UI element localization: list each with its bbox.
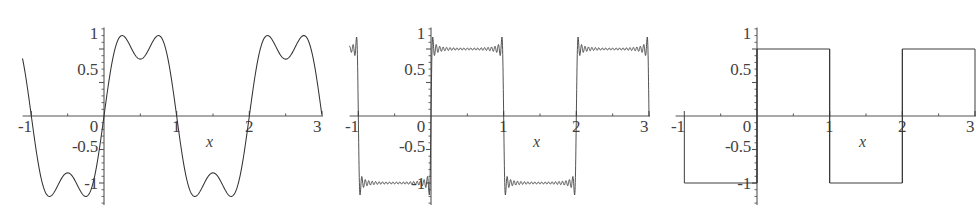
x-tick-label-1: 1 [499,118,507,135]
x-tick-label-neg1: -1 [345,118,359,135]
y-tick-label-0p5: 0.5 [711,61,751,78]
plot-svg-0 [0,0,326,211]
plot-svg-2 [653,0,979,211]
x-tick-label-2: 2 [898,118,906,135]
x-axis-variable-label: x [859,134,866,150]
y-tick-label-neg0p5: -0.5 [703,138,751,155]
y-tick-label-0: 0 [733,118,751,135]
x-axis-variable-label: x [533,134,540,150]
y-tick-label-neg1: -1 [725,175,751,192]
y-tick-label-1: 1 [80,25,98,42]
x-tick-label-1: 1 [172,118,180,135]
x-tick-label-2: 2 [572,118,580,135]
plot-panel-fourier-2-terms: 1 0.5 0 -0.5 -1 -1 1 2 3 x [0,0,326,211]
y-tick-label-neg1: -1 [399,175,425,192]
x-tick-label-neg1: -1 [671,118,685,135]
x-tick-label-3: 3 [313,118,321,135]
y-tick-label-neg0p5: -0.5 [50,138,98,155]
plot-svg-1 [327,0,653,211]
y-tick-label-neg1: -1 [72,175,98,192]
x-tick-label-1: 1 [825,118,833,135]
y-tick-label-0p5: 0.5 [58,61,98,78]
x-tick-label-3: 3 [966,118,974,135]
y-tick-label-1: 1 [733,25,751,42]
x-tick-label-neg1: -1 [18,118,32,135]
x-tick-label-3: 3 [640,118,648,135]
y-tick-label-0: 0 [80,118,98,135]
plot-panel-gibbs: 1 0.5 0 -0.5 -1 -1 1 2 3 x [327,0,653,211]
x-tick-label-2: 2 [245,118,253,135]
y-tick-label-0p5: 0.5 [385,61,425,78]
y-tick-label-1: 1 [407,25,425,42]
plot-panel-square-wave: 1 0.5 0 -0.5 -1 -1 1 2 3 x [653,0,979,211]
y-tick-label-0: 0 [407,118,425,135]
y-tick-label-neg0p5: -0.5 [377,138,425,155]
figure-canvas: 1 0.5 0 -0.5 -1 -1 1 2 3 x 1 0.5 0 -0.5 … [0,0,979,211]
x-axis-variable-label: x [206,134,213,150]
